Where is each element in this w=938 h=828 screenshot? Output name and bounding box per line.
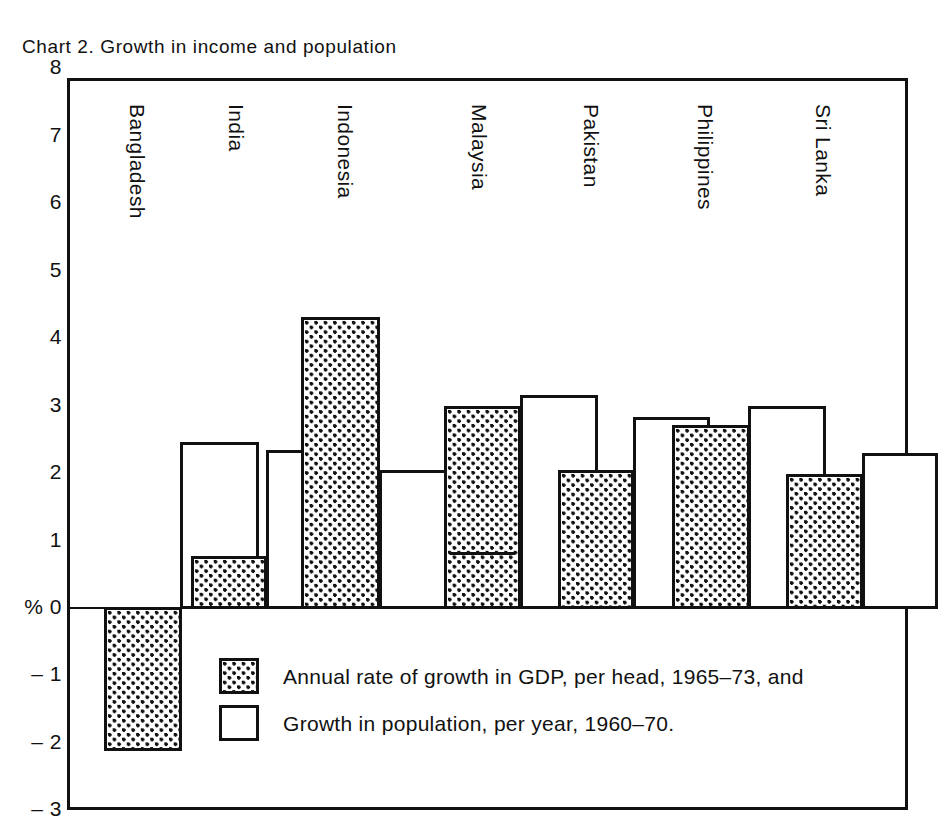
country-label-philippines: Philippines [695, 104, 716, 210]
legend-swatch-white [219, 705, 259, 741]
country-label-malaysia: Malaysia [469, 104, 490, 190]
y-axis-tick-5: 5 [0, 259, 62, 280]
y-axis-tick-4: 4 [0, 326, 62, 347]
y-axis-tick-neg3: – 3 [0, 798, 62, 819]
y-axis-tick-7: 7 [0, 124, 62, 145]
plot-surface: BangladeshIndiaIndonesiaMalaysiaPakistan… [70, 81, 905, 807]
country-label-pakistan: Pakistan [581, 104, 602, 188]
bar-gdp-bangladesh [104, 607, 182, 751]
y-axis-labels: 87654321% 0– 1– 2– 3 [0, 0, 62, 828]
y-axis-tick-0: % 0 [0, 596, 62, 617]
legend-item-gdp: Annual rate of growth in GDP, per head, … [219, 658, 804, 694]
y-axis-tick-neg1: – 1 [0, 663, 62, 684]
y-axis-tick-2: 2 [0, 461, 62, 482]
chart-title: Chart 2. Growth in income and population [22, 36, 397, 58]
bar-gdp-indonesia [301, 317, 380, 609]
country-label-indonesia: Indonesia [335, 104, 356, 199]
y-axis-tick-3: 3 [0, 394, 62, 415]
country-label-bangladesh: Bangladesh [127, 104, 148, 219]
bar-population-sri-lanka [862, 453, 938, 609]
country-label-india: India [226, 104, 247, 152]
legend-label: Growth in population, per year, 1960–70. [283, 713, 674, 734]
legend-swatch-dotted [219, 658, 259, 694]
legend-label: Annual rate of growth in GDP, per head, … [283, 666, 804, 687]
bar-gdp-malaysia [444, 406, 521, 609]
y-axis-tick-8: 8 [0, 56, 62, 77]
bar-gdp-india [191, 556, 267, 609]
y-axis-tick-6: 6 [0, 191, 62, 212]
y-axis-tick-neg2: – 2 [0, 731, 62, 752]
legend-item-population: Growth in population, per year, 1960–70. [219, 705, 674, 741]
bar-print-artifact-malaysia [450, 552, 515, 555]
country-label-sri-lanka: Sri Lanka [813, 104, 834, 196]
bar-gdp-philippines [672, 425, 750, 609]
bar-gdp-pakistan [558, 470, 634, 609]
bar-gdp-sri-lanka [786, 474, 863, 609]
y-axis-tick-1: 1 [0, 529, 62, 550]
